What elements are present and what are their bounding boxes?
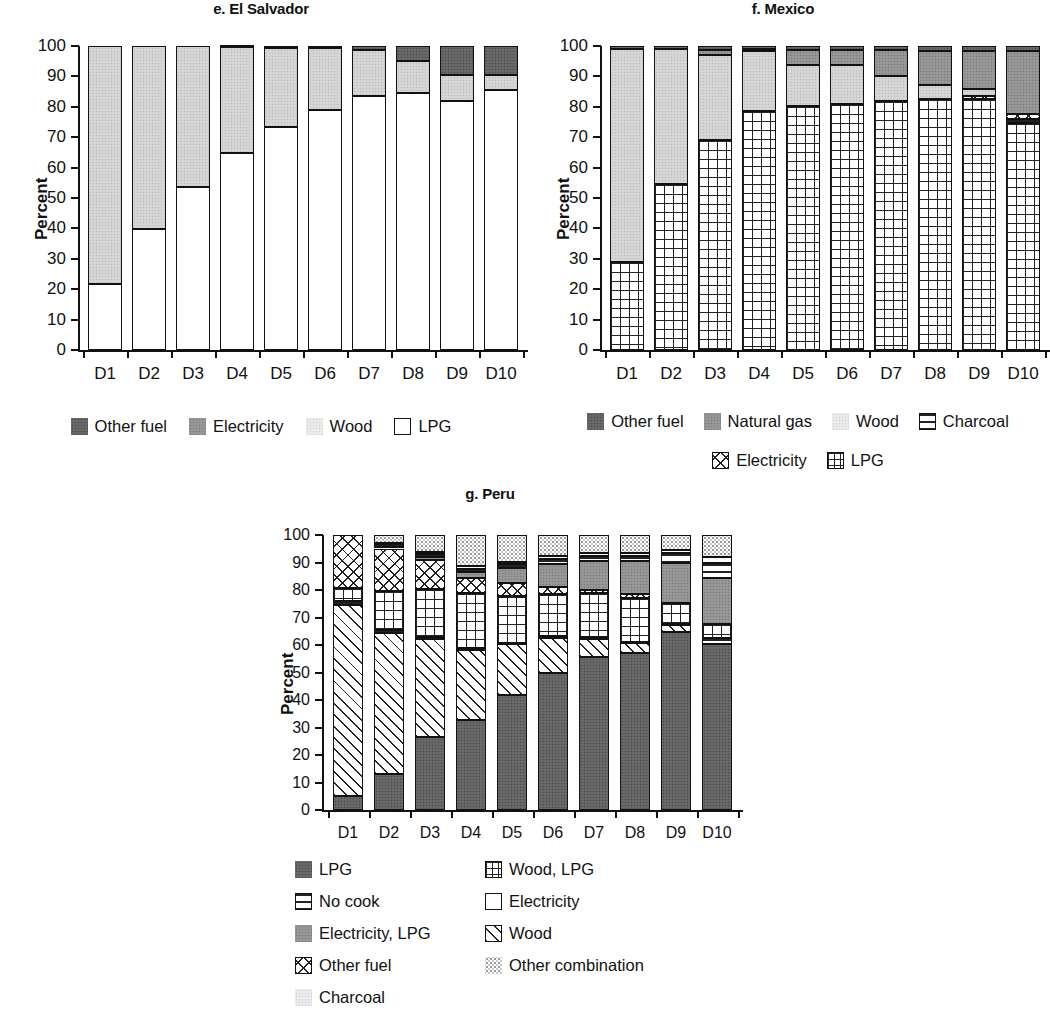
- bar-segment: [176, 187, 210, 350]
- legend-peru-item[interactable]: Electricity, LPG: [295, 924, 485, 943]
- legend-swatch-icon: [295, 861, 312, 878]
- legend-mexico-item[interactable]: Electricity: [712, 451, 807, 470]
- bar-segment: [220, 153, 254, 350]
- y-tick-label: 40: [47, 218, 66, 238]
- x-tick-mark: [738, 810, 740, 818]
- bar-segment: [874, 76, 908, 100]
- x-tick-mark: [781, 350, 783, 358]
- legend-mexico-item[interactable]: LPG: [827, 451, 884, 470]
- x-tick-mark: [693, 350, 695, 358]
- legend-el-salvador-item[interactable]: LPG: [394, 417, 451, 436]
- y-tick-label: 60: [47, 158, 66, 178]
- bar-segment: [579, 639, 609, 657]
- legend-swatch-icon: [919, 413, 936, 430]
- bar-segment: [1006, 46, 1040, 51]
- stacked-bar: [352, 46, 386, 350]
- bar-segment: [220, 45, 254, 47]
- legend-swatch-icon: [485, 957, 502, 974]
- stacked-bar: [610, 46, 644, 350]
- x-tick-label-d8: D8: [924, 364, 946, 384]
- bar-segment: [654, 184, 688, 350]
- bar-segment: [333, 535, 363, 588]
- legend-peru-item[interactable]: Other combination: [485, 956, 745, 975]
- bar-segment: [538, 564, 568, 587]
- x-tick-mark: [697, 810, 699, 818]
- bar-segment: [352, 96, 386, 350]
- y-tick-mark: [315, 644, 323, 646]
- bar-segment: [415, 637, 445, 639]
- y-tick-mark: [593, 75, 601, 77]
- bar-segment: [786, 46, 820, 50]
- bar-segment: [579, 556, 609, 560]
- legend-label: LPG: [418, 417, 451, 436]
- bar-segment: [374, 633, 404, 774]
- x-tick-mark: [649, 350, 651, 358]
- stacked-bar: [176, 46, 210, 350]
- y-tick-mark: [71, 136, 79, 138]
- legend-label: Wood: [856, 412, 899, 431]
- x-tick-mark: [913, 350, 915, 358]
- x-tick-mark: [369, 810, 371, 818]
- bar-segment: [333, 605, 363, 796]
- legend-peru-item[interactable]: LPG: [295, 860, 485, 879]
- x-tick-mark: [869, 350, 871, 358]
- legend-peru-item[interactable]: Other fuel: [295, 956, 485, 975]
- legend-peru-item[interactable]: No cook: [295, 892, 485, 911]
- bar-segment: [786, 50, 820, 65]
- bar-segment: [620, 598, 650, 642]
- bar-segment: [620, 556, 650, 561]
- x-tick-mark: [328, 810, 330, 818]
- legend-label: Natural gas: [728, 412, 812, 431]
- bar-segment: [264, 127, 298, 350]
- bar-segment: [264, 48, 298, 128]
- legend-label: Electricity: [213, 417, 284, 436]
- bar-segment: [1006, 51, 1040, 114]
- x-tick-label-d3: D3: [704, 364, 726, 384]
- legend-peru-item[interactable]: Charcoal: [295, 988, 485, 1007]
- y-tick-mark: [593, 288, 601, 290]
- y-tick-label: 30: [569, 249, 588, 269]
- legend-mexico-item[interactable]: Natural gas: [704, 412, 812, 431]
- legend-peru: LPGWood, LPGNo cookElectricityElectricit…: [200, 853, 840, 1017]
- legend-el-salvador-item[interactable]: Other fuel: [71, 417, 167, 436]
- y-tick-label: 40: [569, 218, 588, 238]
- legend-el-salvador-item[interactable]: Electricity: [189, 417, 284, 436]
- legend-peru-item[interactable]: Wood, LPG: [485, 860, 745, 879]
- bar-segment: [374, 535, 404, 543]
- y-tick-label: 100: [283, 526, 310, 544]
- y-tick-mark: [593, 45, 601, 47]
- x-tick-label-d1: D1: [616, 364, 638, 384]
- legend-peru-item[interactable]: Electricity: [485, 892, 745, 911]
- x-tick-mark: [492, 810, 494, 818]
- panel-peru: g. Peru Percent1009080706050403020100D1D…: [170, 485, 870, 1017]
- y-tick-mark: [71, 227, 79, 229]
- bar-segment: [308, 48, 342, 109]
- bar-segment: [661, 550, 691, 554]
- bar-segment: [742, 46, 776, 49]
- bar-segment: [698, 46, 732, 50]
- y-tick-label: 80: [292, 581, 310, 599]
- bar-segment: [497, 564, 527, 568]
- bar-segment: [742, 111, 776, 350]
- legend-mexico-item[interactable]: Other fuel: [587, 412, 683, 431]
- bar-segment: [620, 653, 650, 810]
- bar-segment: [702, 624, 732, 638]
- legend-swatch-icon: [71, 418, 88, 435]
- legend-mexico-item[interactable]: Wood: [832, 412, 899, 431]
- bar-segment: [352, 50, 386, 96]
- y-tick-mark: [71, 45, 79, 47]
- legend-el-salvador-item[interactable]: Wood: [306, 417, 373, 436]
- x-tick-mark: [1001, 350, 1003, 358]
- bar-segment: [333, 588, 363, 601]
- legend-mexico-item[interactable]: Charcoal: [919, 412, 1009, 431]
- legend-peru-item[interactable]: Wood: [485, 924, 745, 943]
- x-tick-mark: [1045, 350, 1047, 358]
- y-tick-label: 40: [292, 691, 310, 709]
- legend-swatch-icon: [295, 957, 312, 974]
- bar-segment: [661, 553, 691, 563]
- legend-swatch-icon: [712, 452, 729, 469]
- legend-label: Other fuel: [611, 412, 683, 431]
- x-tick-label-d5: D5: [792, 364, 814, 384]
- y-tick-mark: [315, 672, 323, 674]
- x-tick-label-d1: D1: [94, 364, 116, 384]
